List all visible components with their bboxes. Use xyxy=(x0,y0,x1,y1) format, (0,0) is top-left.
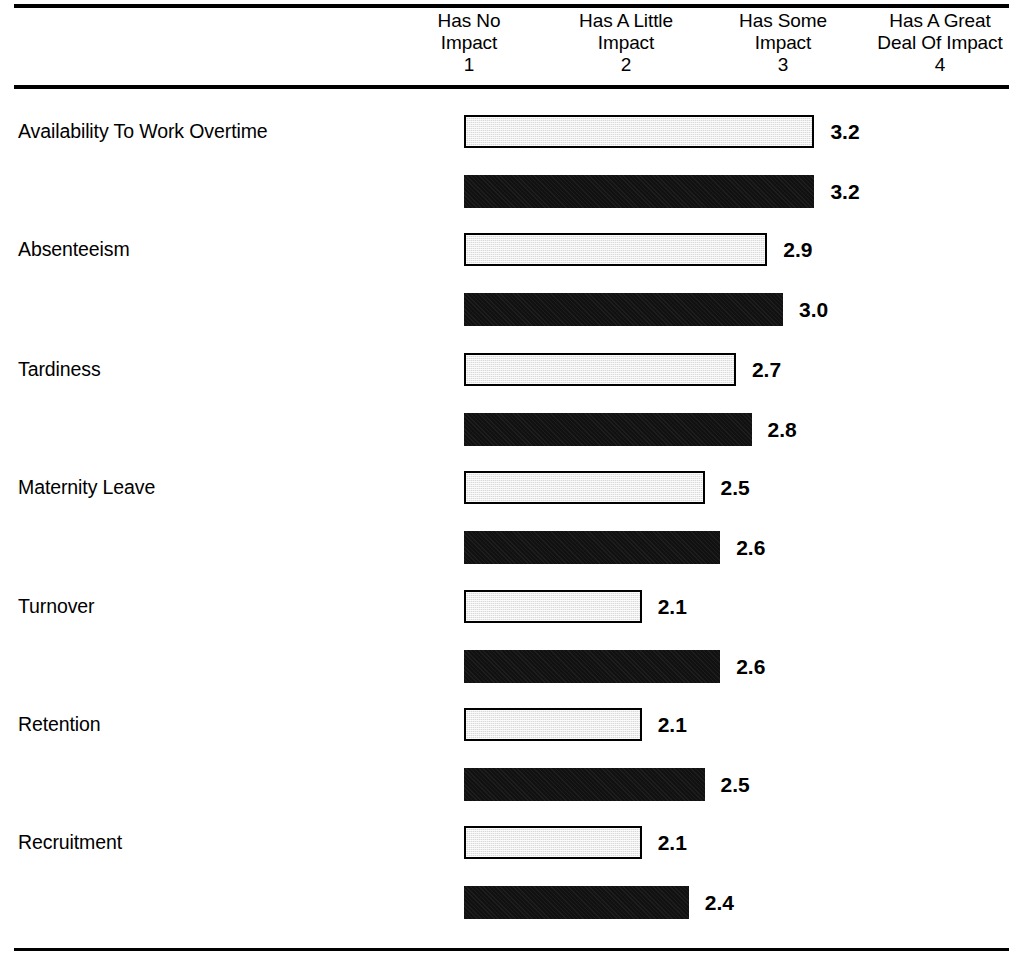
category-label: Turnover xyxy=(18,595,95,617)
column-header-number: 4 xyxy=(840,54,1023,76)
bar-value-label: 3.2 xyxy=(830,175,859,208)
bar-dark xyxy=(464,531,720,564)
bar-light xyxy=(464,471,705,504)
bar-value-label: 2.5 xyxy=(721,471,750,504)
bar-light xyxy=(464,826,642,859)
bar-value-label: 2.6 xyxy=(736,650,765,683)
bar-dark xyxy=(464,293,783,326)
column-header-line2: Impact xyxy=(598,32,654,53)
column-header-line1: Has No xyxy=(438,10,501,31)
bar-value-label: 2.1 xyxy=(658,590,687,623)
bar-value-label: 2.1 xyxy=(658,708,687,741)
bar-light xyxy=(464,708,642,741)
category-label: Absenteeism xyxy=(18,238,130,260)
category-label: Retention xyxy=(18,713,101,735)
category-label: Availability To Work Overtime xyxy=(18,120,268,142)
bar-value-label: 3.2 xyxy=(830,115,859,148)
bar-light xyxy=(464,353,736,386)
bar-light xyxy=(464,115,814,148)
column-header-line1: Has Some xyxy=(739,10,827,31)
header-divider-rule xyxy=(14,85,1009,89)
bar-dark xyxy=(464,768,705,801)
bar-value-label: 2.6 xyxy=(736,531,765,564)
column-header-line2: Impact xyxy=(755,32,811,53)
bottom-rule xyxy=(14,948,1009,951)
column-header-line1: Has A Great xyxy=(889,10,990,31)
bar-value-label: 2.7 xyxy=(752,353,781,386)
impact-bar-chart: Has NoImpact1Has A LittleImpact2Has Some… xyxy=(0,0,1023,974)
column-header-line2: Impact xyxy=(441,32,497,53)
bar-light xyxy=(464,233,767,266)
bar-value-label: 2.9 xyxy=(783,233,812,266)
column-header-line2: Deal Of Impact xyxy=(877,32,1002,53)
bar-dark xyxy=(464,413,752,446)
bar-light xyxy=(464,590,642,623)
column-header-4: Has A GreatDeal Of Impact4 xyxy=(840,10,1023,76)
column-header-row: Has NoImpact1Has A LittleImpact2Has Some… xyxy=(0,10,1023,82)
column-header-line1: Has A Little xyxy=(579,10,673,31)
bar-value-label: 2.4 xyxy=(705,886,734,919)
category-label: Maternity Leave xyxy=(18,476,155,498)
category-label: Tardiness xyxy=(18,358,101,380)
bar-value-label: 3.0 xyxy=(799,293,828,326)
category-label: Recruitment xyxy=(18,831,122,853)
bar-value-label: 2.1 xyxy=(658,826,687,859)
bar-dark xyxy=(464,650,720,683)
bar-value-label: 2.8 xyxy=(768,413,797,446)
bar-value-label: 2.5 xyxy=(721,768,750,801)
top-rule xyxy=(14,4,1009,8)
bar-dark xyxy=(464,175,814,208)
bar-dark xyxy=(464,886,689,919)
